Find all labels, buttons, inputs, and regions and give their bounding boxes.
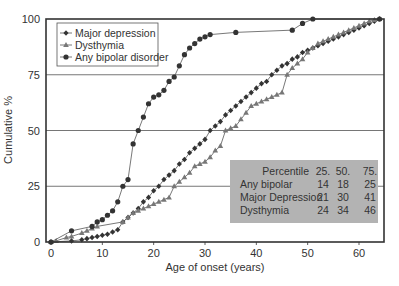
triangle-marker-icon (218, 143, 224, 148)
table-cell: 30 (337, 191, 349, 203)
table-cell: Major Depression (240, 191, 322, 203)
table-cell: Dysthymia (240, 204, 289, 216)
circle-marker-icon (110, 208, 115, 213)
triangle-marker-icon (177, 179, 183, 184)
y-tick-label: 50 (28, 125, 40, 137)
circle-marker-icon (182, 52, 187, 57)
circle-marker-icon (197, 36, 202, 41)
legend: Major depressionDysthymiaAny bipolar dis… (57, 23, 169, 66)
circle-marker-icon (202, 34, 207, 39)
triangle-marker-icon (166, 194, 172, 199)
diamond-marker-icon (115, 227, 120, 233)
legend-label: Dysthymia (75, 39, 124, 51)
table-header-cell: 25. (316, 165, 331, 177)
table-cell: 34 (337, 204, 349, 216)
legend-item: Major depression (60, 27, 156, 39)
circle-marker-icon (187, 45, 192, 50)
circle-marker-icon (192, 41, 197, 46)
x-tick-label: 60 (353, 247, 365, 259)
triangle-marker-icon (295, 61, 301, 66)
circle-marker-icon (172, 74, 177, 79)
table-cell: Any bipolar (240, 178, 293, 190)
diamond-marker-icon (95, 234, 100, 240)
table-cell: 41 (364, 191, 376, 203)
circle-marker-icon (300, 21, 305, 26)
x-tick-label: 10 (96, 247, 108, 259)
triangle-marker-icon (289, 65, 295, 70)
circle-marker-icon (151, 94, 156, 99)
percentile-table: Percentile25.50.75.Any bipolar141825Majo… (230, 160, 378, 223)
x-tick-label: 40 (250, 247, 262, 259)
circle-marker-icon (146, 101, 151, 106)
x-tick-label: 0 (48, 247, 54, 259)
y-tick-label: 25 (28, 180, 40, 192)
table-header-cell: Percentile (262, 165, 309, 177)
y-axis-label: Cumulative % (2, 96, 14, 164)
table-cell: 24 (317, 204, 329, 216)
diamond-marker-icon (110, 229, 115, 235)
triangle-marker-icon (182, 174, 188, 179)
circle-marker-icon (100, 217, 105, 222)
circle-marker-icon (89, 224, 94, 229)
circle-marker-icon (69, 228, 74, 233)
y-tick-label: 100 (22, 13, 40, 25)
triangle-marker-icon (212, 148, 218, 153)
legend-item: Any bipolar disorder (60, 51, 169, 63)
circle-marker-icon (208, 32, 213, 37)
y-tick-label: 75 (28, 69, 40, 81)
circle-marker-icon (141, 115, 146, 120)
circle-marker-icon (120, 184, 125, 189)
diamond-marker-icon (89, 235, 94, 241)
triangle-marker-icon (202, 159, 208, 164)
legend-label: Any bipolar disorder (75, 51, 169, 63)
table-header-cell: 75. (363, 165, 378, 177)
circle-marker-icon (233, 30, 238, 35)
circle-marker-icon (136, 128, 141, 133)
table-cell: 46 (364, 204, 376, 216)
triangle-marker-icon (171, 183, 177, 188)
circle-marker-icon (125, 177, 130, 182)
diamond-marker-icon (100, 233, 105, 239)
circle-marker-icon (115, 199, 120, 204)
diamond-marker-icon (69, 238, 74, 244)
table-cell: 18 (337, 178, 349, 190)
cumulative-onset-chart: 02550751000102030405060 Age of onset (ye… (0, 0, 399, 286)
circle-marker-icon (290, 28, 295, 33)
circle-marker-icon (161, 88, 166, 93)
x-tick-label: 30 (199, 247, 211, 259)
table-cell: 14 (317, 178, 329, 190)
circle-marker-icon (131, 141, 136, 146)
table-header-cell: 50. (336, 165, 351, 177)
y-tick-label: 0 (34, 236, 40, 248)
x-tick-label: 50 (302, 247, 314, 259)
x-axis-label: Age of onset (years) (165, 261, 264, 273)
x-tick-label: 20 (148, 247, 160, 259)
legend-label: Major depression (75, 27, 156, 39)
circle-marker-icon (166, 79, 171, 84)
circle-marker-icon (156, 92, 161, 97)
circle-marker-icon (63, 54, 68, 59)
circle-marker-icon (177, 63, 182, 68)
circle-marker-icon (105, 213, 110, 218)
diamond-marker-icon (105, 231, 110, 237)
circle-marker-icon (95, 219, 100, 224)
diamond-marker-icon (84, 236, 89, 242)
table-cell: 25 (364, 178, 376, 190)
triangle-marker-icon (279, 90, 285, 95)
table-cell: 21 (317, 191, 329, 203)
